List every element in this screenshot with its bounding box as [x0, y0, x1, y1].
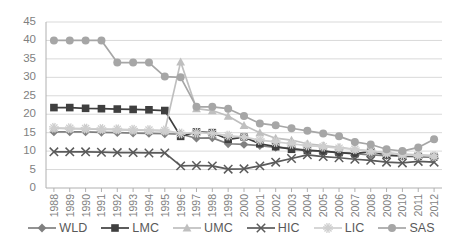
data-point-square — [98, 105, 106, 113]
x-tick-label: 2005 — [317, 194, 329, 217]
x-tick-label: 1992 — [111, 194, 123, 217]
legend-marker-x-icon — [246, 221, 276, 235]
legend-item-umc[interactable]: UMC — [172, 221, 233, 235]
data-point-circle — [129, 59, 137, 67]
legend-marker-star-icon — [313, 221, 343, 235]
legend-item-hic[interactable]: HIC — [246, 221, 300, 235]
data-point-square — [161, 107, 169, 115]
legend-marker-square-icon — [100, 221, 130, 235]
data-point-circle — [97, 36, 105, 44]
x-tick-label: 2000 — [238, 194, 250, 217]
legend-marker-triangle-icon — [172, 221, 202, 235]
x-tick-label: 1989 — [64, 194, 76, 217]
data-point-circle — [113, 59, 121, 67]
data-point-circle — [161, 73, 169, 81]
data-point-square — [66, 104, 74, 112]
x-tick-label: 1996 — [175, 194, 187, 217]
data-point-square — [145, 106, 153, 114]
x-tick-label: 2004 — [301, 194, 313, 217]
data-point-circle — [208, 103, 216, 111]
data-point-circle — [256, 119, 264, 127]
legend-item-lic[interactable]: LIC — [313, 221, 365, 235]
data-point-diamond — [38, 224, 47, 233]
legend-marker-diamond-icon — [27, 221, 57, 235]
data-point-circle — [145, 59, 153, 67]
x-tick-label: 1991 — [95, 194, 107, 217]
data-point-circle — [388, 224, 396, 232]
data-point-square — [129, 106, 137, 114]
x-tick-label: 1994 — [143, 194, 155, 217]
legend-marker-circle-icon — [377, 221, 407, 235]
x-tick-label: 2001 — [254, 194, 266, 217]
x-tick-label: 1990 — [80, 194, 92, 217]
data-point-circle — [414, 143, 422, 151]
data-point-circle — [177, 73, 185, 81]
legend-label: HIC — [278, 221, 300, 235]
x-tick-label: 2009 — [381, 194, 393, 217]
legend-label: LIC — [345, 221, 365, 235]
x-tick-label: 1988 — [48, 194, 60, 217]
line-chart: 051015202530354045 198819891990199119921… — [0, 0, 462, 250]
data-point-diamond — [240, 140, 249, 149]
data-point-circle — [430, 135, 438, 143]
legend-item-sas[interactable]: SAS — [377, 221, 434, 235]
chart-legend: WLDLMCUMCHICLICSAS — [0, 221, 462, 235]
data-point-circle — [335, 132, 343, 140]
data-point-circle — [351, 138, 359, 146]
x-tick-label: 2008 — [365, 194, 377, 217]
data-point-circle — [82, 36, 90, 44]
data-point-circle — [367, 140, 375, 148]
x-tick-label: 1995 — [159, 194, 171, 217]
legend-label: UMC — [204, 221, 233, 235]
x-tick-label: 2010 — [396, 194, 408, 217]
x-tick-label: 1999 — [222, 194, 234, 217]
data-point-square — [113, 105, 121, 113]
legend-item-wld[interactable]: WLD — [27, 221, 87, 235]
legend-label: SAS — [409, 221, 434, 235]
x-axis-ticks — [54, 188, 434, 192]
data-point-circle — [383, 145, 391, 153]
data-point-square — [82, 105, 90, 113]
data-point-circle — [66, 36, 74, 44]
data-point-circle — [50, 36, 58, 44]
x-tick-label: 1998 — [206, 194, 218, 217]
legend-item-lmc[interactable]: LMC — [100, 221, 159, 235]
x-tick-label: 1993 — [127, 194, 139, 217]
data-point-square — [50, 104, 58, 112]
data-point-square — [112, 224, 120, 232]
data-point-circle — [303, 127, 311, 135]
legend-label: WLD — [59, 221, 87, 235]
x-tick-label: 2006 — [333, 194, 345, 217]
x-tick-label: 2007 — [349, 194, 361, 217]
legend-label: LMC — [132, 221, 159, 235]
data-point-circle — [288, 124, 296, 132]
data-point-triangle — [240, 121, 249, 129]
data-point-circle — [240, 112, 248, 120]
x-tick-label: 2012 — [428, 194, 440, 217]
x-tick-label: 1997 — [190, 194, 202, 217]
x-tick-label: 2011 — [412, 194, 424, 217]
data-point-circle — [224, 105, 232, 113]
data-point-circle — [398, 147, 406, 155]
x-tick-label: 2002 — [270, 194, 282, 217]
data-point-circle — [272, 121, 280, 129]
data-point-circle — [319, 129, 327, 137]
data-point-circle — [192, 103, 200, 111]
x-tick-label: 2003 — [286, 194, 298, 217]
